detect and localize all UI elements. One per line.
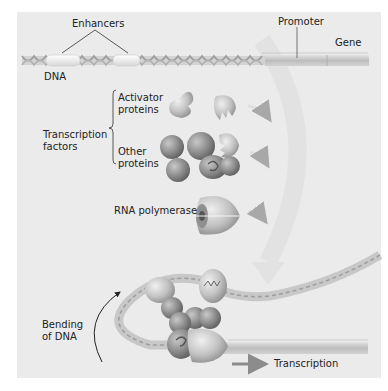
rna-polymerase-icon — [195, 196, 266, 234]
brace — [109, 90, 116, 164]
label-promoter: Promoter — [278, 16, 324, 28]
label-enhancers: Enhancers — [72, 18, 124, 30]
enhancer-2 — [113, 55, 140, 66]
label-rna-polymerase: RNA polymerase — [114, 205, 197, 217]
dna-strand-top — [22, 27, 369, 66]
other-proteins-icon — [160, 132, 268, 182]
activator-proteins-icon — [169, 92, 270, 120]
dna-loop — [119, 255, 380, 354]
process-arrow-icon — [252, 40, 298, 285]
enhancer-1 — [46, 55, 80, 66]
label-transcription-factors: Transcription factors — [43, 129, 107, 153]
label-gene: Gene — [335, 37, 361, 49]
label-activator-proteins: Activator proteins — [118, 92, 163, 116]
label-other-proteins: Other proteins — [118, 146, 159, 170]
label-dna: DNA — [44, 71, 66, 83]
gene-bar — [265, 55, 369, 66]
label-transcription: Transcription — [274, 358, 338, 370]
label-bending-of-dna: Bending of DNA — [42, 319, 83, 343]
